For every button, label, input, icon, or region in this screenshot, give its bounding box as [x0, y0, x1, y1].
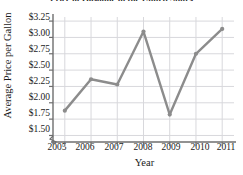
- data-point-marker: [63, 109, 67, 113]
- gridlines: [53, 17, 234, 142]
- data-point-marker: [220, 27, 224, 31]
- data-point-marker: [194, 52, 198, 56]
- data-point-marker: [89, 77, 93, 81]
- data-point-marker: [115, 82, 119, 86]
- plot-area: [0, 0, 243, 175]
- data-point-marker: [168, 112, 172, 116]
- data-point-marker: [141, 29, 145, 33]
- line-chart-svg: [0, 0, 243, 175]
- chart-figure: Price of Gasoline in the United States A…: [0, 0, 243, 175]
